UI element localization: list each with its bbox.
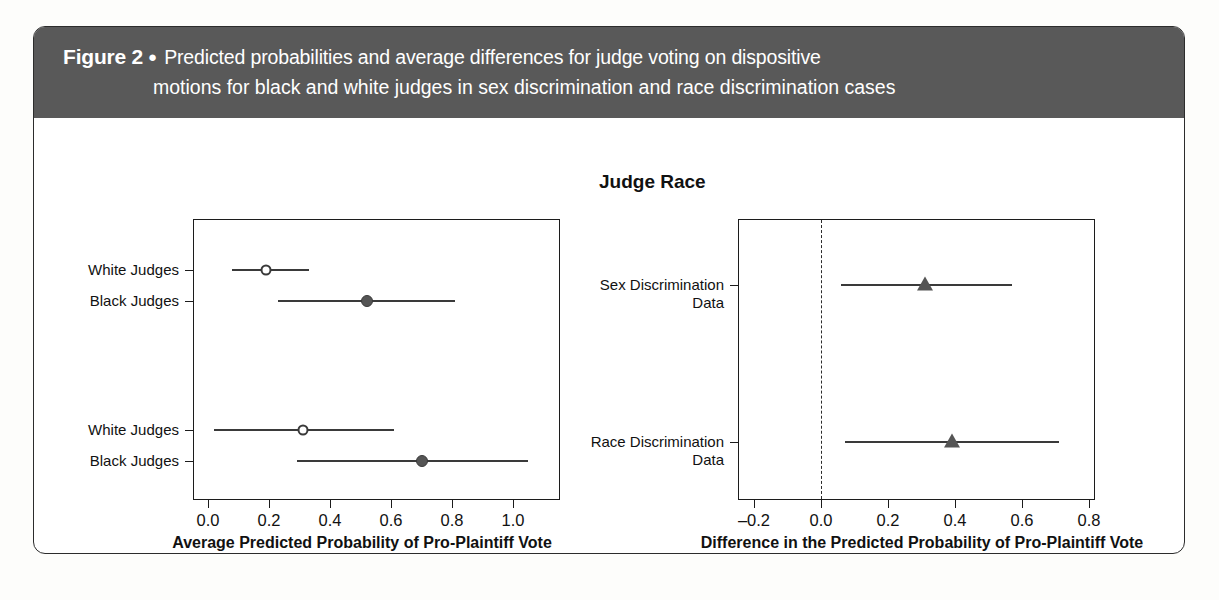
left-xticklabel-4: 0.8	[441, 511, 464, 530]
right-row-label-1-line2: Data	[692, 294, 724, 311]
right-xtick-1	[821, 500, 822, 508]
left-ytick-2	[185, 301, 193, 302]
panel-title-judge-race: Judge Race	[599, 171, 706, 193]
left-point-3-open-circle	[297, 425, 308, 436]
left-xtick-5	[513, 500, 514, 508]
left-row-label-1: White Judges	[34, 261, 179, 279]
right-panel-axes	[738, 219, 1095, 500]
left-xtick-3	[391, 500, 392, 508]
left-row-label-3: White Judges	[34, 421, 179, 439]
figure-root: Figure 2●Predicted probabilities and ave…	[0, 0, 1219, 600]
right-row-label-2-line1: Race Discrimination	[591, 433, 724, 450]
left-row-label-4: Black Judges	[34, 452, 179, 470]
left-xtick-2	[330, 500, 331, 508]
left-xticklabel-1: 0.2	[258, 511, 281, 530]
left-xtick-0	[208, 500, 209, 508]
left-axis-title: Average Predicted Probability of Pro-Pla…	[172, 534, 552, 552]
figure-card: Figure 2●Predicted probabilities and ave…	[33, 26, 1185, 554]
right-row-label-2-line2: Data	[692, 451, 724, 468]
figure-caption-block: Figure 2●Predicted probabilities and ave…	[63, 42, 1165, 102]
figure-caption-line-2: motions for black and white judges in se…	[63, 74, 1165, 102]
left-point-1-open-circle	[260, 265, 271, 276]
right-xtick-5	[1089, 500, 1090, 508]
right-xtick-2	[888, 500, 889, 508]
left-xticklabel-3: 0.6	[380, 511, 403, 530]
right-xtick-0	[754, 500, 755, 508]
right-point-1-filled-triangle	[917, 277, 933, 291]
bullet-icon: ●	[143, 48, 164, 65]
right-xticklabel-5: 0.8	[1078, 511, 1101, 530]
right-xtick-4	[1022, 500, 1023, 508]
right-axis-title: Difference in the Predicted Probability …	[701, 534, 1143, 552]
right-xticklabel-2: 0.2	[877, 511, 900, 530]
left-point-2-filled-circle	[361, 295, 373, 307]
right-xtick-3	[955, 500, 956, 508]
left-xticklabel-0: 0.0	[197, 511, 220, 530]
left-ytick-3	[185, 430, 193, 431]
right-row-label-2: Race Discrimination Data	[554, 433, 724, 470]
right-xticklabel-4: 0.6	[1011, 511, 1034, 530]
right-xticklabel-3: 0.4	[944, 511, 967, 530]
left-point-4-filled-circle	[416, 455, 428, 467]
figure-number-label: Figure 2	[63, 45, 143, 68]
right-xticklabel-0: –0.2	[738, 511, 770, 530]
right-point-2-filled-triangle	[944, 434, 960, 448]
left-ytick-1	[185, 270, 193, 271]
left-ci-line-4	[297, 460, 529, 462]
figure-caption-line-1: Predicted probabilities and average diff…	[164, 46, 821, 68]
right-ytick-1	[730, 285, 738, 286]
left-panel-axes	[193, 219, 560, 500]
figure-header-banner: Figure 2●Predicted probabilities and ave…	[33, 26, 1185, 118]
plot-stage: Judge Race White Judges Black Judges Whi…	[34, 119, 1185, 553]
right-row-label-1-line1: Sex Discrimination	[600, 276, 724, 293]
zero-reference-line	[821, 220, 822, 499]
left-xticklabel-5: 1.0	[502, 511, 525, 530]
right-xticklabel-1: 0.0	[810, 511, 833, 530]
left-row-label-2: Black Judges	[34, 292, 179, 310]
right-row-label-1: Sex Discrimination Data	[554, 276, 724, 313]
left-ytick-4	[185, 461, 193, 462]
left-xticklabel-2: 0.4	[319, 511, 342, 530]
right-ytick-2	[730, 442, 738, 443]
left-xtick-4	[452, 500, 453, 508]
left-xtick-1	[269, 500, 270, 508]
